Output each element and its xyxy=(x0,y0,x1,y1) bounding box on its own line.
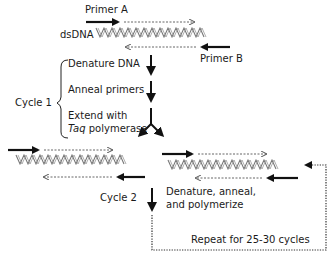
cycle2-step-line2: and polymerize xyxy=(166,199,243,211)
dsdna-label: dsDNA xyxy=(60,29,94,41)
pcr-diagram xyxy=(0,0,335,256)
primer-a-label: Primer A xyxy=(85,4,128,16)
cycle2-label: Cycle 2 xyxy=(100,192,137,204)
taq-rest: polymerase xyxy=(86,123,148,134)
cycle2-step-line1: Denature, anneal, xyxy=(166,186,256,198)
repeat-label: Repeat for 25-30 cycles xyxy=(191,234,310,246)
cycle1-label: Cycle 1 xyxy=(15,97,52,109)
cycle1-brace xyxy=(57,60,68,138)
step-extend-line2: Taq polymerase xyxy=(68,123,147,135)
step-denature-dna: Denature DNA xyxy=(68,58,140,70)
step-anneal-primers: Anneal primers xyxy=(68,84,144,96)
left-product-dsdna xyxy=(8,150,145,177)
step-extend-line1: Extend with xyxy=(68,110,127,122)
primer-b-label: Primer B xyxy=(200,53,243,65)
taq-italic: Taq xyxy=(68,123,86,134)
right-product-dsdna xyxy=(162,154,298,178)
top-dsdna xyxy=(86,22,230,47)
